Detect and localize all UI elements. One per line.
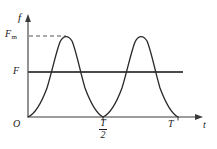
figure-container: f t O Fm F T 2 T — [0, 0, 217, 149]
half-period-label: T 2 — [95, 118, 111, 140]
half-period-denominator: 2 — [99, 130, 107, 140]
peak-value-label: Fm — [5, 29, 17, 41]
x-axis-label: t — [203, 120, 206, 130]
half-period-numerator: T — [99, 118, 107, 128]
y-axis-label: f — [18, 12, 21, 23]
half-period-fraction: T 2 — [99, 118, 107, 140]
peak-value-subscript: m — [11, 33, 16, 41]
x-axis-arrowhead — [195, 114, 203, 120]
period-label: T — [168, 119, 174, 129]
y-axis-arrowhead — [25, 14, 31, 22]
origin-label: O — [13, 119, 20, 129]
mean-value-label: F — [13, 66, 19, 76]
force-curve — [28, 37, 178, 117]
